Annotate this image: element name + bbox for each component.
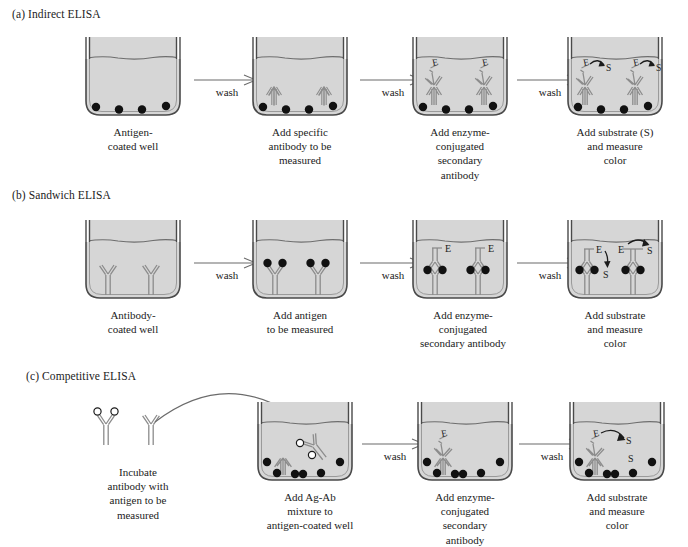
substrate-label: S [647, 245, 653, 256]
panel-c-step-2-well [250, 400, 360, 489]
substrate-label: S [656, 63, 661, 73]
enzyme-label: E [596, 244, 602, 255]
antigen-open-circle [111, 408, 118, 415]
substrate-label: S [626, 435, 632, 446]
panel-c-step-4-well: E S S [562, 400, 672, 489]
panel-sandwich-elisa: (b) Sandwich ELISA Antibody- coated well… [0, 180, 688, 360]
panel-b-step-4-well: E S E S [560, 218, 670, 307]
panel-b-step-1-caption: Antibody- coated well [68, 308, 198, 336]
enzyme-label: E [488, 243, 494, 254]
panel-a-step-2-caption: Add specific antibody to be measured [235, 125, 365, 168]
panel-a-heading: (a) Indirect ELISA [12, 8, 101, 20]
panel-b-step-1-well [78, 218, 188, 307]
panel-c-heading: (c) Competitive ELISA [26, 370, 136, 382]
panel-b-step-2-well [245, 218, 355, 307]
enzyme-label: E [445, 243, 451, 254]
panel-b-heading: (b) Sandwich ELISA [12, 189, 111, 201]
panel-c-step-3-caption: Add enzyme- conjugated secondary antibod… [400, 490, 530, 547]
antigen-open-circle [308, 451, 315, 458]
panel-a-step-1-caption: Antigen- coated well [68, 125, 198, 153]
antigen-open-circle [94, 408, 101, 415]
panel-b-step-3-caption: Add enzyme- conjugated secondary antibod… [388, 308, 538, 351]
panel-a-step-4-well: E S E S [560, 35, 670, 124]
panel-b-step-2-caption: Add antigen to be measured [235, 308, 365, 336]
panel-a-step-2-well [245, 35, 355, 124]
panel-a-step-4-caption: Add substrate (S) and measure color [550, 125, 680, 168]
panel-c-step-1-caption: Incubate antibody with antigen to be mea… [68, 465, 208, 522]
panel-a-step-3-well: E E [405, 35, 515, 124]
panel-c-step-3-well: E [410, 400, 520, 489]
panel-competitive-elisa: (c) Competitive ELISA Incubate antibody … [0, 360, 688, 547]
panel-c-step-4-caption: Add substrate and measure color [552, 490, 682, 533]
enzyme-label: E [618, 244, 624, 255]
substrate-label: S [628, 453, 634, 464]
panel-b-step-3-well: E E [405, 218, 515, 307]
antigen-open-circle [296, 439, 303, 446]
substrate-label: S [603, 269, 609, 280]
panel-b-step-4-caption: Add substrate and measure color [550, 308, 680, 351]
panel-a-step-3-caption: Add enzyme- conjugated secondary antibod… [395, 125, 525, 182]
substrate-label: S [606, 63, 611, 73]
panel-c-step-2-caption: Add Ag-Ab mixture to antigen-coated well [235, 490, 385, 533]
panel-a-step-1-well [78, 35, 188, 124]
panel-indirect-elisa: (a) Indirect ELISA Antigen- coated well … [0, 0, 688, 180]
